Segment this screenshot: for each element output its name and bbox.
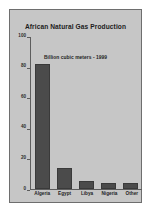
x-axis-line bbox=[30, 189, 142, 190]
bar-series bbox=[31, 37, 142, 189]
chart-panel: African Natural Gas Production 100 80 60… bbox=[9, 9, 142, 203]
chart-figure: African Natural Gas Production 100 80 60… bbox=[0, 0, 153, 214]
y-tick-label: 100 bbox=[18, 34, 26, 39]
y-tick-mark bbox=[27, 98, 30, 99]
bar-nigeria bbox=[101, 183, 116, 189]
chart-title: African Natural Gas Production bbox=[10, 23, 141, 30]
bar-algeria bbox=[35, 64, 50, 189]
bar-slot bbox=[31, 37, 53, 189]
bar-slot bbox=[120, 37, 142, 189]
y-tick-label: 20 bbox=[21, 156, 26, 161]
plot-area: 100 80 60 40 20 0 Billion cubic bbox=[30, 37, 142, 190]
bar-slot bbox=[53, 37, 75, 189]
bar-other bbox=[123, 183, 138, 189]
x-label-egypt: Egypt bbox=[53, 192, 75, 197]
y-tick-label: 0 bbox=[23, 187, 26, 192]
y-tick-label: 40 bbox=[21, 125, 26, 130]
x-label-libya: Libya bbox=[76, 192, 98, 197]
y-tick-mark bbox=[27, 190, 30, 191]
y-tick-mark bbox=[27, 129, 30, 130]
x-label-algeria: Algeria bbox=[31, 192, 53, 197]
y-tick-label: 80 bbox=[21, 64, 26, 69]
bar-slot bbox=[75, 37, 97, 189]
y-tick-mark bbox=[27, 159, 30, 160]
y-tick-label: 60 bbox=[21, 95, 26, 100]
y-tick-mark bbox=[27, 37, 30, 38]
y-tick-mark bbox=[27, 68, 30, 69]
bar-slot bbox=[98, 37, 120, 189]
x-axis-labels: Algeria Egypt Libya Nigeria Other bbox=[31, 192, 143, 197]
x-label-other: Other bbox=[121, 192, 143, 197]
bar-egypt bbox=[57, 168, 72, 189]
bar-libya bbox=[79, 181, 94, 189]
x-label-nigeria: Nigeria bbox=[98, 192, 120, 197]
